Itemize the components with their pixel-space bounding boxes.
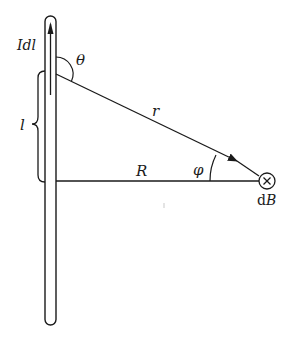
r-label: r xyxy=(152,102,160,120)
current-arrowhead-icon xyxy=(48,22,54,34)
biot-savart-diagram: Idl θ l r R φ dB xyxy=(0,0,285,346)
length-label: l xyxy=(20,116,25,134)
length-brace xyxy=(32,71,45,182)
field-label: dB xyxy=(257,192,276,208)
r-vector-tail xyxy=(237,161,259,176)
r-vector xyxy=(56,74,237,161)
field-label-d: d xyxy=(257,192,266,208)
current-element-label: Idl xyxy=(16,37,36,53)
phi-label: φ xyxy=(193,161,204,179)
field-label-B: B xyxy=(265,192,276,208)
theta-label: θ xyxy=(76,51,85,69)
phi-angle-arc xyxy=(210,155,216,181)
R-label: R xyxy=(135,162,147,180)
